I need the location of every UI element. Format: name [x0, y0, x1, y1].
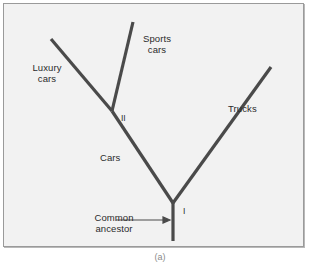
branch-node1-to-node2	[112, 111, 173, 203]
label-sports-cars: Sports cars	[132, 33, 182, 55]
figure-root: Luxury cars Sports cars Trucks Cars Comm…	[0, 0, 320, 272]
branch-node2-to-sports-cars	[112, 22, 133, 111]
diagram-frame: Luxury cars Sports cars Trucks Cars Comm…	[3, 3, 304, 247]
label-cars: Cars	[100, 152, 120, 163]
common-ancestor-arrow-head	[163, 217, 170, 223]
node-label-one: I	[183, 207, 185, 216]
node-label-two: II	[121, 114, 126, 123]
label-trucks: Trucks	[228, 103, 257, 114]
figure-caption: (a)	[0, 252, 320, 263]
branch-node1-to-trucks	[173, 67, 271, 203]
label-luxury-cars: Luxury cars	[19, 62, 75, 84]
label-common-ancestor: Common ancestor	[82, 212, 146, 234]
